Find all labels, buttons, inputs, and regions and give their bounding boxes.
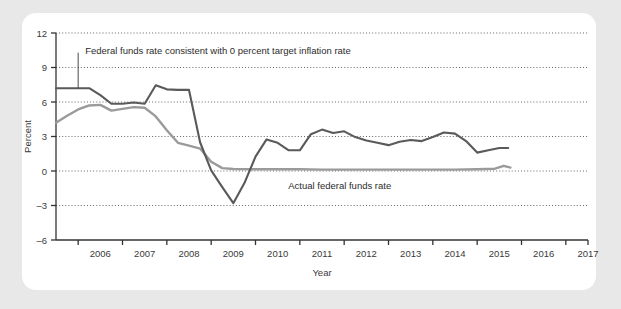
x-tick-label: 2016 [533, 248, 554, 259]
x-tick-label: 2008 [178, 248, 199, 259]
series-line-consistent-rate [56, 85, 508, 203]
chart-figure: 129630–3–6 20062007200820092010201120122… [0, 0, 621, 309]
x-axis-label: Year [312, 267, 331, 278]
series-line-actual-rate [56, 105, 510, 170]
line-chart-svg: 129630–3–6 20062007200820092010201120122… [0, 0, 621, 309]
x-tick-label: 2013 [400, 248, 421, 259]
x-tick-label: 2010 [267, 248, 288, 259]
x-tick-label: 2014 [444, 248, 465, 259]
y-tick-label: 9 [42, 62, 47, 73]
y-tick-label: 12 [36, 28, 47, 39]
data-series-group [56, 85, 510, 203]
y-tick-label: 3 [42, 131, 47, 142]
y-tick-label: 6 [42, 97, 47, 108]
annotation-actual-rate: Actual federal funds rate [288, 180, 391, 191]
y-tick-label: –6 [36, 235, 47, 246]
x-tick-label: 2011 [312, 248, 332, 259]
y-tick-label: –3 [36, 200, 47, 211]
x-tick-label: 2006 [90, 248, 111, 259]
y-tick-label: 0 [42, 166, 47, 177]
x-tick-label: 2017 [577, 248, 598, 259]
y-axis-label: Percent [22, 120, 33, 153]
axis-lines [56, 33, 588, 240]
annotation-consistent-rate: Federal funds rate consistent with 0 per… [85, 45, 351, 56]
x-tick-label: 2015 [489, 248, 510, 259]
chart-screenshot: 129630–3–6 20062007200820092010201120122… [0, 0, 621, 309]
x-tick-label: 2009 [223, 248, 244, 259]
x-tick-label: 2012 [356, 248, 377, 259]
x-axis-ticks: 2006200720082009201020112012201320142015… [78, 240, 598, 259]
x-tick-label: 2007 [134, 248, 155, 259]
y-axis-ticks: 129630–3–6 [36, 28, 56, 246]
